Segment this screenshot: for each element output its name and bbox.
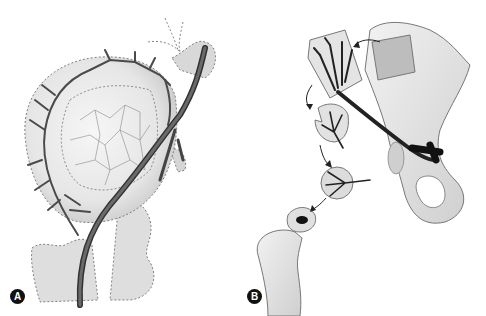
illustration (0, 0, 486, 316)
superior-bone (172, 41, 216, 78)
panel-b (257, 22, 470, 316)
panel-label-a: A (10, 289, 25, 304)
panel-label-b: B (247, 289, 262, 304)
acetabular-region (388, 142, 404, 174)
figure: A B (0, 0, 486, 316)
panel-a (25, 18, 216, 305)
femoral-head-capsule (25, 57, 177, 223)
core-defect (296, 216, 308, 224)
proximal-femur (257, 230, 302, 316)
dashed-vessels (148, 18, 183, 52)
